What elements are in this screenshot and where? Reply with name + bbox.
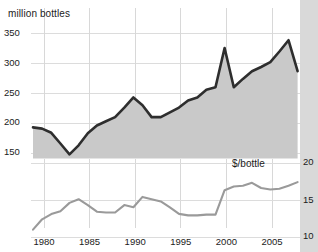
y-tick-label-right-20: 20 — [303, 156, 314, 167]
x-tick-label-2005: 2005 — [261, 236, 283, 247]
x-tick-label-1980: 1980 — [33, 236, 55, 247]
x-tick-label-1985: 1985 — [79, 236, 101, 247]
y-tick-label-right-15: 15 — [303, 194, 314, 205]
y-axis-title-left: million bottles — [8, 8, 70, 19]
y-tick-label-right-10: 10 — [303, 230, 314, 241]
y-tick-label-200: 200 — [4, 116, 20, 127]
y-tick-label-150: 150 — [4, 146, 20, 157]
y-tick-label-250: 250 — [4, 87, 20, 98]
y-tick-label-300: 300 — [4, 57, 20, 68]
y-tick-label-350: 350 — [4, 27, 20, 38]
right-axis-band — [300, 0, 318, 252]
production-area-fill — [33, 40, 298, 165]
x-tick-label-2000: 2000 — [215, 236, 237, 247]
wine-production-price-chart — [0, 0, 318, 252]
lower-panel-background — [31, 159, 300, 229]
chart-container: million bottles 350 300 250 200 150 $/bo… — [0, 0, 318, 252]
x-tick-label-1995: 1995 — [170, 236, 192, 247]
x-tick-label-1990: 1990 — [124, 236, 146, 247]
y-axis-title-right: $/bottle — [232, 158, 265, 169]
